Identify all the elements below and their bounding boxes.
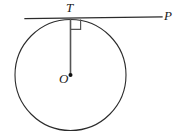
geometry-figure: T O P (0, 0, 191, 134)
label-point-p: P (164, 9, 172, 22)
geometry-canvas (0, 0, 191, 134)
label-tangent-point-t: T (66, 1, 73, 14)
center-point-dot (69, 73, 73, 77)
figure-background (0, 0, 191, 134)
label-center-o: O (59, 72, 68, 85)
